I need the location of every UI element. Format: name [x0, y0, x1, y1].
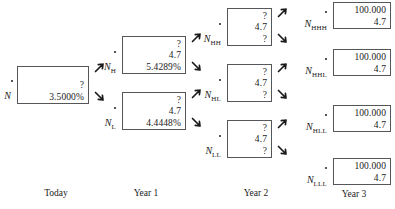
rate-cell: 5.4289% [123, 62, 185, 74]
node-label-base: N [307, 174, 314, 185]
node-label-n-hll: NHLL [296, 122, 327, 135]
value-box-n-l: ?4.74.4448% [122, 92, 186, 130]
coupon-cell: 4.7 [228, 22, 271, 34]
arrow-NH-to-NHH-icon [190, 31, 203, 44]
node-label-subscript: H [111, 67, 116, 75]
value-box-n-ll: ?4.7? [227, 120, 272, 158]
arrow-NHH-to-NHHL-icon [276, 32, 289, 45]
arrow-NL-to-NLL-icon [190, 116, 203, 129]
interest-rate-tree-diagram: ?3.5000%N?4.75.4289%NH?4.74.4448%NL?4.7?… [0, 0, 395, 209]
node-dot-n-hhh [325, 11, 327, 13]
arrow-N-to-NH-icon [93, 61, 106, 74]
arrow-NL-to-NHL-icon [190, 87, 203, 100]
rate-cell: ? [228, 90, 271, 102]
node-label-subscript: HHL [312, 71, 327, 79]
rate-cell: 4.4448% [123, 118, 185, 130]
coupon-cell: 4.7 [228, 78, 271, 90]
coupon-cell: 4.7 [123, 50, 185, 62]
coupon-cell: 4.7 [123, 106, 185, 118]
timeline-caption-year3: Year 3 [318, 189, 390, 200]
redemption-cell: 100.000 [334, 161, 390, 173]
node-label-subscript: HH [210, 39, 221, 47]
timeline-caption-today: Today [16, 188, 96, 199]
rate-cell: ? [228, 34, 271, 46]
rate-cell: ? [228, 146, 271, 158]
node-label-base: N [105, 117, 112, 128]
node-dot-n-hh [219, 23, 221, 25]
arrow-NHH-to-NHHH-icon [276, 6, 289, 19]
node-label-base: N [305, 65, 312, 76]
node-label-n-ll: NLL [197, 146, 221, 159]
value-box-n: ?3.5000% [17, 66, 89, 104]
value-box-n-hhl: 100.0004.7 [333, 49, 391, 76]
price-cell: ? [123, 39, 185, 51]
arrow-N-to-NL-icon [93, 90, 106, 103]
node-label-subscript: LLL [314, 180, 327, 188]
node-label-n-hhl: NHHL [296, 66, 327, 79]
value-box-n-hh: ?4.7? [227, 8, 272, 46]
value-box-n-lll: 100.0004.7 [333, 158, 391, 185]
coupon-cell: 4.7 [334, 17, 390, 29]
redemption-cell: 100.000 [334, 108, 390, 120]
timeline-caption-year2: Year 2 [216, 188, 296, 199]
node-dot-n-ll [219, 135, 221, 137]
arrow-NHL-to-NHHL-icon [276, 61, 289, 74]
coupon-cell: 4.7 [334, 120, 390, 132]
redemption-cell: 100.000 [334, 52, 390, 64]
value-box-n-hl: ?4.7? [227, 64, 272, 102]
node-label-n-lll: NLLL [296, 175, 327, 188]
timeline-caption-year1: Year 1 [106, 188, 186, 199]
arrow-NHL-to-NHLL-icon [276, 88, 289, 101]
value-box-n-hhh: 100.0004.7 [333, 2, 391, 29]
node-dot-n-hhl [325, 58, 327, 60]
redemption-cell: 100.000 [334, 5, 390, 17]
price-cell: ? [228, 11, 271, 23]
node-label-subscript: LL [212, 151, 221, 159]
node-dot-n [11, 80, 13, 82]
price-cell: ? [123, 95, 185, 107]
node-label-n-hhh: NHHH [296, 19, 327, 32]
price-cell: ? [18, 80, 88, 92]
node-label-base: N [306, 121, 313, 132]
node-dot-n-h [114, 51, 116, 53]
arrow-NH-to-NHL-icon [190, 60, 203, 73]
node-dot-n-l [114, 107, 116, 109]
node-dot-n-hll [325, 114, 327, 116]
coupon-cell: 4.7 [334, 64, 390, 76]
arrow-NLL-to-NHLL-icon [276, 117, 289, 130]
node-label-subscript: HL [211, 95, 221, 103]
coupon-cell: 4.7 [228, 134, 271, 146]
value-box-n-h: ?4.75.4289% [122, 36, 186, 74]
node-dot-n-hl [219, 79, 221, 81]
node-label-subscript: HHH [311, 24, 327, 32]
price-cell: ? [228, 67, 271, 79]
value-box-n-hll: 100.0004.7 [333, 105, 391, 132]
price-cell: ? [228, 123, 271, 135]
node-label-base: N [4, 90, 11, 101]
node-label-n: N [0, 91, 11, 101]
node-label-subscript: L [112, 123, 116, 131]
arrow-NLL-to-NLLL-icon [276, 144, 289, 157]
rate-cell: 3.5000% [18, 92, 88, 104]
node-dot-n-lll [325, 167, 327, 169]
coupon-cell: 4.7 [334, 173, 390, 185]
node-label-subscript: HLL [313, 127, 327, 135]
node-label-n-l: NL [99, 118, 116, 131]
